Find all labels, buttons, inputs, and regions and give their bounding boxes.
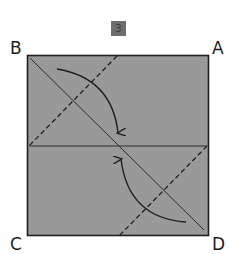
corner-label-d: D bbox=[212, 236, 225, 253]
corner-label-c: C bbox=[10, 236, 22, 253]
corner-label-b: B bbox=[10, 40, 22, 57]
corner-label-a: A bbox=[212, 40, 224, 57]
step-number-badge: 3 bbox=[111, 21, 126, 36]
